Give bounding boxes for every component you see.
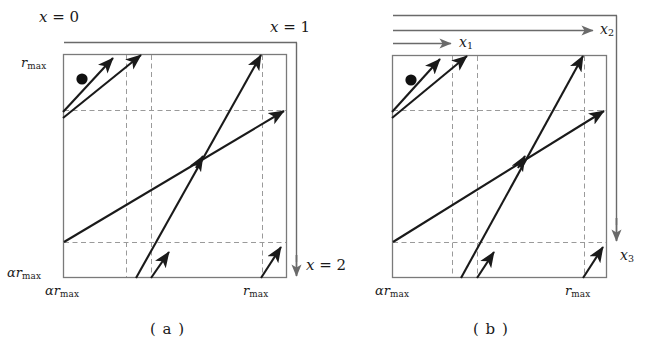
figure-root: x = 0 x = 1 x = 2 rmax αrmax αrmax rmax … <box>0 0 648 357</box>
figure-canvas <box>0 0 648 357</box>
panel-a-x-axis-left-label: αrmax <box>45 284 79 299</box>
panel-b-steep-diagonal <box>461 56 583 278</box>
panel-a-x-equals-2: x = 2 <box>306 258 346 273</box>
panel-a-y-axis-bottom-label: αrmax <box>7 266 41 281</box>
panel-b-plot-box <box>393 56 607 278</box>
panel-a-shallow-diagonal <box>64 111 284 242</box>
panel-a-trajectories <box>63 55 284 278</box>
panel-b-short-arrow-mid <box>477 252 494 278</box>
panel-a-short-arrow-mid <box>151 252 169 278</box>
panel-b-arrow-label-x3: x3 <box>620 248 634 264</box>
panel-a-steep-diagonal <box>136 55 261 278</box>
panel-b-gridlines <box>393 56 606 277</box>
panel-a-x-equals-1: x = 1 <box>270 20 310 35</box>
panel-b-start-dot <box>405 74 416 85</box>
panel-b-upper-branch-long <box>392 56 467 118</box>
panel-b-group <box>392 16 617 279</box>
panel-a-x-axis-right-label: rmax <box>243 284 268 299</box>
panel-b-x-axis-right-label: rmax <box>565 284 590 299</box>
panel-a-y-axis-top-label: rmax <box>21 56 46 71</box>
panel-b-short-arrow-right <box>583 247 603 278</box>
panel-a-plot-box <box>64 55 287 278</box>
panel-a-caption: ( a ) <box>150 322 185 337</box>
panel-b-caption: ( b ) <box>473 322 509 337</box>
panel-b-x-axis-left-label: αrmax <box>375 284 409 299</box>
panel-a-upper-branch-long <box>63 55 141 118</box>
panel-b-shallow-diagonal <box>393 111 604 242</box>
panel-a-short-arrow-right <box>261 247 281 278</box>
panel-b-arrow-label-x1: x1 <box>459 35 473 51</box>
panel-a-gridlines <box>64 55 286 277</box>
panel-b-trajectories <box>392 56 604 278</box>
panel-b-arrow-label-x2: x2 <box>600 22 614 38</box>
panel-a-x-equals-0: x = 0 <box>39 10 79 25</box>
panel-a-start-dot <box>76 73 87 84</box>
panel-a-group <box>63 43 297 279</box>
